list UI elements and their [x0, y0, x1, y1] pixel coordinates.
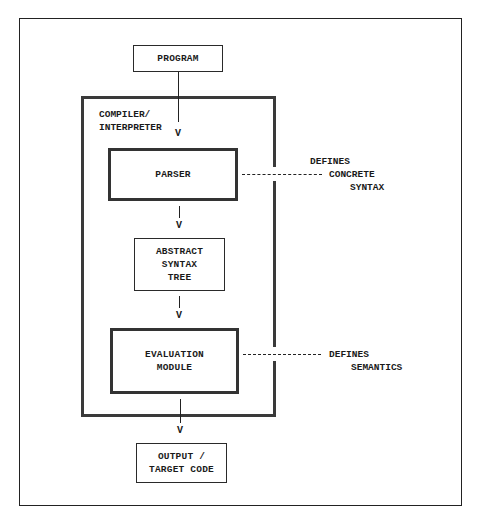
output-node: OUTPUT / TARGET CODE: [136, 443, 227, 483]
edge-parser-ast: [179, 206, 180, 218]
annotation-defines: DEFINES: [310, 155, 350, 168]
annotation-semantics: SEMANTICS: [351, 361, 402, 374]
parser-node: PARSER: [108, 148, 238, 201]
dashed-connector-concrete-syntax: [242, 174, 322, 175]
evaluation-module-node: EVALUATION MODULE: [110, 328, 239, 394]
dashed-connector-semantics: [243, 354, 321, 355]
annotation-concrete: CONCRETE: [329, 168, 375, 181]
edge-evaluation-output: [180, 399, 181, 423]
arrowhead-icon: V: [175, 426, 185, 436]
annotation-defines-semantics: DEFINES: [329, 348, 369, 361]
ast-node: ABSTRACT SYNTAX TREE: [134, 238, 225, 291]
arrowhead-icon: V: [174, 311, 184, 321]
program-node: PROGRAM: [133, 45, 223, 72]
annotation-syntax: SYNTAX: [350, 181, 384, 194]
arrowhead-icon: V: [174, 221, 184, 231]
compiler-label: COMPILER/ INTERPRETER: [99, 108, 162, 134]
edge-program-parser: [178, 72, 179, 122]
edge-ast-evaluation: [179, 296, 180, 308]
arrowhead-icon: V: [173, 129, 183, 139]
